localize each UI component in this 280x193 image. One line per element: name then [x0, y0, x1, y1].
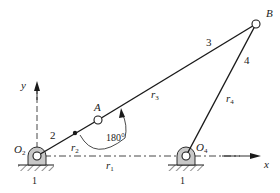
x-axis-label: x — [264, 159, 269, 170]
label-B: B — [266, 8, 273, 19]
label-ground-right: 1 — [180, 176, 185, 186]
label-r2: r2 — [71, 142, 79, 155]
label-O4: O4 — [196, 142, 207, 155]
linkage-drawing — [0, 0, 280, 193]
pivot-O4 — [182, 152, 190, 160]
angle-180-arc — [80, 108, 126, 149]
label-link-3: 3 — [206, 37, 212, 48]
crank-midpoint-dot — [73, 131, 77, 135]
label-r1: r1 — [106, 160, 114, 173]
link-4-rocker — [186, 24, 256, 156]
label-r3: r3 — [151, 89, 159, 102]
link-2-crank — [37, 120, 98, 156]
label-angle-180: 180° — [106, 133, 125, 143]
label-O2: O2 — [14, 144, 25, 157]
y-axis-label: y — [21, 80, 26, 91]
label-link-4: 4 — [244, 55, 250, 66]
label-ground-left: 1 — [32, 176, 37, 186]
y-axis — [34, 81, 40, 148]
label-A: A — [94, 102, 101, 113]
pivot-O2 — [33, 152, 41, 160]
label-link-2: 2 — [50, 130, 56, 141]
four-bar-linkage-diagram: y x O2 O4 A B 1 1 2 3 4 r2 r1 r3 r4 180° — [0, 0, 280, 193]
label-r4: r4 — [226, 93, 234, 106]
pin-B — [252, 20, 260, 28]
pin-A — [94, 116, 102, 124]
